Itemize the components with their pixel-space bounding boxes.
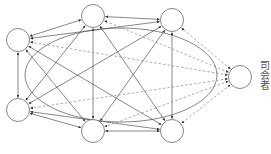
arrow-B-E bbox=[100, 30, 165, 121]
moderator-label: 司会者 bbox=[257, 60, 269, 90]
arrow-B-D bbox=[29, 26, 161, 103]
arrow-A-D bbox=[26, 26, 85, 100]
communication-network-diagram bbox=[0, 0, 271, 154]
arrow-D-E bbox=[30, 113, 81, 127]
arrow-C-E bbox=[26, 50, 85, 122]
edges bbox=[18, 17, 230, 131]
participant-node-B bbox=[161, 9, 184, 32]
moderator-node bbox=[229, 66, 252, 89]
arrow-A-F bbox=[100, 26, 165, 120]
group-ellipse bbox=[25, 28, 217, 122]
participant-node-C bbox=[7, 29, 30, 52]
arrow-A-B bbox=[105, 17, 159, 20]
dashed-arrow-M-D bbox=[30, 79, 227, 108]
participant-node-E bbox=[82, 120, 105, 143]
participant-node-A bbox=[82, 5, 105, 28]
dashed-arrow-M-F bbox=[182, 85, 230, 123]
group-ellipse bbox=[25, 28, 217, 122]
participant-node-D bbox=[7, 99, 30, 122]
participant-node-F bbox=[161, 120, 184, 143]
